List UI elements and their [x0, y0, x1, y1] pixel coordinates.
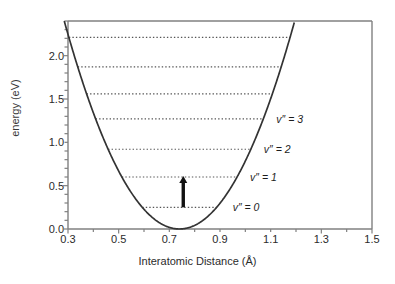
vibrational-transition-arrow [179, 176, 187, 207]
potential-energy-curve-figure: energy (eV) Interatomic Distance (Å) 0.0… [0, 0, 395, 284]
axes-frame [68, 21, 372, 229]
plot-canvas [0, 0, 395, 284]
axis-ticks [63, 21, 372, 234]
energy-level-lines [69, 37, 290, 207]
potential-well-curve [64, 21, 294, 229]
